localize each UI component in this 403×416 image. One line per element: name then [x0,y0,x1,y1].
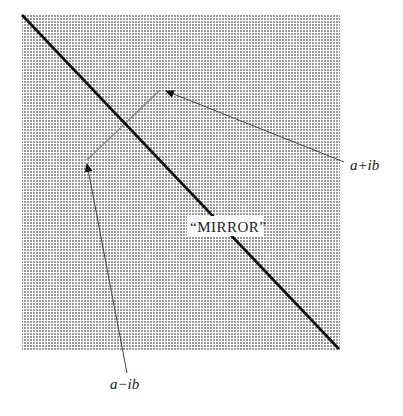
mirror-label: “MIRROR” [190,219,267,235]
upper-point-label: a+ib [350,157,380,173]
lower-point-label: a−ib [110,376,140,392]
mirror-diagram: “MIRROR” a+ib a−ib [0,0,403,416]
